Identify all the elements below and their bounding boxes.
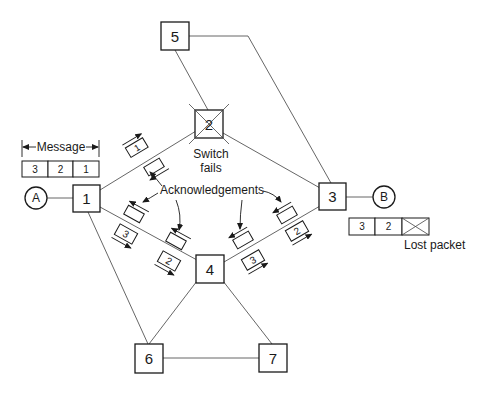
received-cell: 3 [359, 221, 365, 232]
endpoint-A: A [25, 187, 47, 209]
svg-text:3: 3 [328, 188, 336, 205]
svg-text:5: 5 [171, 28, 179, 45]
link-4-3 [224, 206, 320, 262]
link-4-6 [149, 281, 197, 344]
message-cell: 1 [83, 164, 89, 175]
packet-in-transit-1-4-3: 3 [112, 223, 139, 248]
switch-node-5: 5 [161, 22, 189, 50]
message-cell: 3 [32, 164, 38, 175]
received-packets: 3 2 Lost packet [349, 218, 466, 252]
switch-fails-label: Switch [193, 147, 228, 161]
message-cell: 2 [58, 164, 64, 175]
link-4-7 [223, 281, 272, 344]
packet-in-transit-4-3-3: 3 [240, 249, 267, 274]
svg-text:4: 4 [206, 261, 214, 278]
svg-text:A: A [32, 191, 40, 205]
switch-node-1: 1 [73, 185, 100, 212]
ack-packet-1-4-a [123, 201, 149, 224]
received-cell: 2 [386, 221, 392, 232]
link-1-2 [100, 131, 196, 190]
svg-text:6: 6 [145, 350, 153, 367]
packet-switching-diagram: Message 3 2 1 A 1 5 2 Switch fails 3 [0, 0, 482, 393]
packet-in-transit-1-2: 1 [122, 134, 149, 158]
link-2-3 [223, 133, 320, 188]
switch-fails-label: fails [200, 161, 221, 175]
svg-text:B: B [380, 190, 388, 204]
link-2-5 [175, 50, 208, 110]
switch-node-2-failed: 2 Switch fails [189, 104, 229, 175]
lost-packet-label: Lost packet [404, 238, 466, 252]
acknowledgements-annotation: Acknowledgements [143, 172, 281, 230]
ack-packet-1-2 [143, 157, 169, 180]
packet-in-transit-1-4-2: 2 [155, 250, 182, 275]
svg-text:7: 7 [269, 350, 277, 367]
message-packets: 3 2 1 [22, 161, 99, 177]
acknowledgements-label: Acknowledgements [160, 183, 264, 197]
switch-node-4: 4 [196, 255, 224, 283]
svg-text:1: 1 [82, 190, 90, 207]
switch-node-6: 6 [135, 344, 163, 373]
endpoint-B: B [373, 186, 395, 208]
message-label: Message [37, 140, 86, 154]
switch-node-7: 7 [259, 344, 287, 372]
ack-packet-1-4-b [165, 228, 191, 251]
message-header: Message [22, 140, 99, 157]
switch-node-3: 3 [319, 183, 346, 210]
